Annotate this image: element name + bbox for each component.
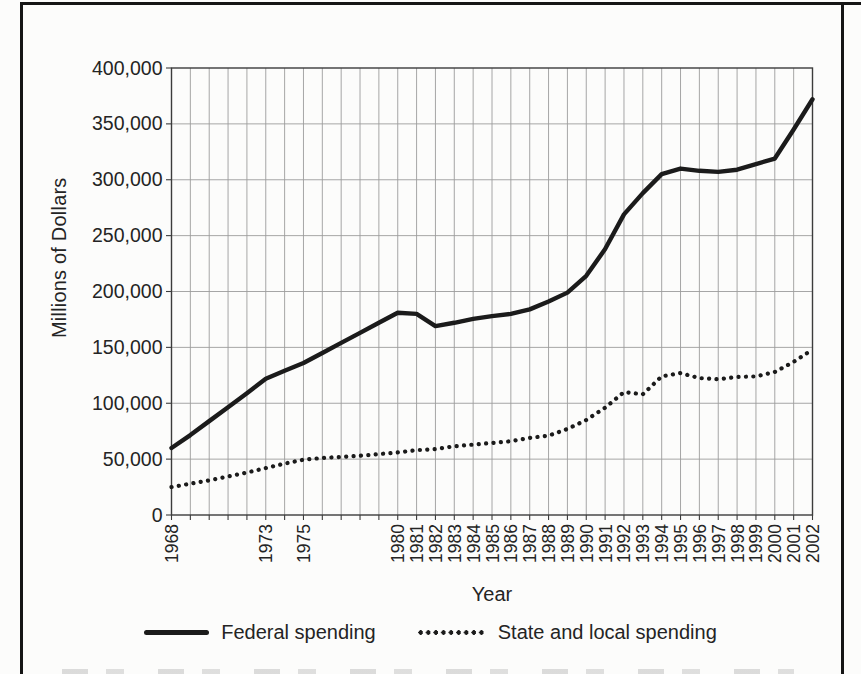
legend-item-federal: Federal spending bbox=[144, 621, 376, 644]
spending-line-chart: 050,000100,000150,000200,000250,000300,0… bbox=[0, 0, 861, 674]
scanned-chart-page: 050,000100,000150,000200,000250,000300,0… bbox=[0, 0, 861, 674]
svg-text:300,000: 300,000 bbox=[92, 168, 163, 190]
svg-text:1988: 1988 bbox=[539, 524, 559, 563]
svg-text:50,000: 50,000 bbox=[103, 448, 163, 470]
svg-text:100,000: 100,000 bbox=[92, 392, 163, 414]
svg-text:1981: 1981 bbox=[407, 524, 427, 563]
svg-text:1968: 1968 bbox=[162, 524, 182, 563]
svg-text:1984: 1984 bbox=[464, 524, 484, 563]
svg-text:350,000: 350,000 bbox=[92, 112, 163, 134]
svg-text:0: 0 bbox=[152, 504, 163, 526]
legend-item-state-local: State and local spending bbox=[418, 621, 717, 644]
svg-text:2000: 2000 bbox=[765, 524, 785, 563]
svg-text:1975: 1975 bbox=[294, 524, 314, 563]
svg-text:1982: 1982 bbox=[426, 524, 446, 563]
svg-text:400,000: 400,000 bbox=[92, 57, 163, 79]
svg-text:1998: 1998 bbox=[728, 524, 748, 563]
svg-text:1992: 1992 bbox=[614, 524, 634, 563]
svg-text:1990: 1990 bbox=[577, 524, 597, 563]
svg-text:200,000: 200,000 bbox=[92, 280, 163, 302]
federal-solid-line-swatch bbox=[144, 630, 209, 635]
state-local-dotted-line-swatch bbox=[418, 630, 486, 635]
svg-text:250,000: 250,000 bbox=[92, 224, 163, 246]
legend-label-state-local: State and local spending bbox=[498, 621, 717, 644]
svg-text:1983: 1983 bbox=[445, 524, 465, 563]
svg-text:1986: 1986 bbox=[501, 524, 521, 563]
svg-text:1991: 1991 bbox=[596, 524, 616, 563]
svg-text:1993: 1993 bbox=[633, 524, 653, 563]
svg-text:1999: 1999 bbox=[746, 524, 766, 563]
svg-text:150,000: 150,000 bbox=[92, 336, 163, 358]
y-axis-title: Millions of Dollars bbox=[48, 177, 71, 338]
svg-text:1987: 1987 bbox=[520, 524, 540, 563]
legend-label-federal: Federal spending bbox=[221, 621, 376, 644]
svg-text:1989: 1989 bbox=[558, 524, 578, 563]
svg-text:1997: 1997 bbox=[709, 524, 729, 563]
svg-text:1994: 1994 bbox=[652, 524, 672, 563]
x-axis-title: Year bbox=[171, 583, 813, 606]
cut-off-caption-remnant bbox=[62, 669, 794, 674]
svg-text:1980: 1980 bbox=[388, 524, 408, 563]
svg-text:2002: 2002 bbox=[803, 524, 823, 563]
svg-text:1985: 1985 bbox=[483, 524, 503, 563]
svg-text:2001: 2001 bbox=[784, 524, 804, 563]
chart-legend: Federal spending State and local spendin… bbox=[0, 618, 861, 646]
svg-text:1973: 1973 bbox=[256, 524, 276, 563]
svg-text:1996: 1996 bbox=[690, 524, 710, 563]
svg-text:1995: 1995 bbox=[671, 524, 691, 563]
